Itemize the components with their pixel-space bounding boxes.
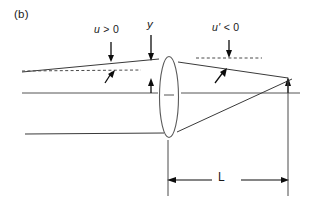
label-incident-angle: u > 0	[94, 24, 119, 35]
leader-arrow-u-refracted	[226, 40, 232, 58]
panel-label: (b)	[14, 9, 29, 21]
incident-angle-relation: > 0	[100, 23, 119, 35]
diagram-canvas	[0, 0, 316, 206]
dimension-extension-lines	[168, 80, 288, 196]
label-refracted-angle: u′ < 0	[212, 22, 239, 33]
optics-ray-diagram-figure: (b) u > 0 y u′ < 0 L	[0, 0, 316, 206]
angle-indicator-u-incident	[105, 70, 115, 83]
label-ray-height: y	[147, 19, 153, 31]
upper-refracted-ray	[178, 62, 288, 78]
ray-height-arrow-y	[148, 78, 154, 93]
lower-refracted-ray	[177, 79, 292, 132]
label-distance: L	[218, 171, 225, 183]
converging-lens	[160, 57, 179, 138]
upper-incident-ray	[22, 59, 159, 72]
leader-arrow-u-incident	[108, 42, 114, 62]
angle-indicator-u-refracted	[215, 68, 227, 83]
distance-dimension-L	[167, 177, 289, 183]
refracted-angle-relation: < 0	[220, 21, 239, 33]
lower-incident-ray	[25, 133, 164, 134]
leader-arrow-y	[148, 35, 154, 61]
